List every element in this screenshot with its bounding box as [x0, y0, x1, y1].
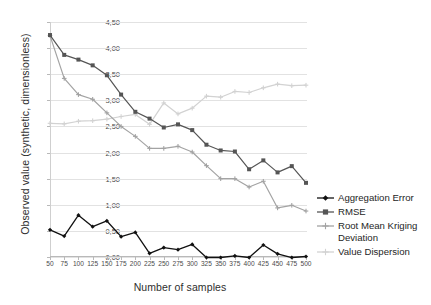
data-point	[275, 206, 280, 211]
legend-label: Value Dispersion	[338, 246, 410, 258]
data-point	[162, 246, 166, 250]
legend-item[interactable]: Root Mean Kriging Deviation	[316, 220, 431, 243]
data-point	[119, 114, 124, 119]
data-point	[233, 150, 237, 154]
data-point	[290, 164, 294, 168]
data-point	[105, 117, 110, 122]
chart-figure: Observed value (synthetic, dimensionless…	[0, 0, 431, 305]
data-point	[261, 179, 266, 184]
legend-item[interactable]: RMSE	[316, 206, 431, 218]
legend-label: RMSE	[338, 206, 366, 218]
legend-marker-plus-icon	[316, 246, 335, 258]
data-point	[275, 82, 280, 87]
data-series-layer	[50, 22, 307, 257]
x-axis-title: Number of samples	[40, 281, 320, 293]
data-point	[261, 158, 265, 162]
data-point	[304, 83, 309, 88]
data-point	[176, 122, 180, 126]
legend-marker-plus-icon	[316, 220, 335, 232]
chart-legend: Aggregation ErrorRMSERoot Mean Kriging D…	[316, 192, 431, 260]
data-point	[62, 122, 67, 127]
data-point	[204, 143, 208, 147]
data-point	[219, 148, 223, 152]
data-point	[48, 33, 52, 37]
data-point	[161, 146, 166, 151]
data-point	[90, 118, 95, 123]
series-value-dispersion	[48, 82, 309, 127]
data-point	[247, 90, 252, 95]
legend-label: Aggregation Error	[338, 192, 414, 204]
series-aggregation-error	[48, 213, 308, 260]
data-point	[218, 95, 223, 100]
data-point	[105, 73, 109, 77]
data-point	[176, 144, 181, 149]
data-point	[247, 167, 251, 171]
series-line	[50, 35, 306, 183]
legend-item[interactable]: Aggregation Error	[316, 192, 431, 204]
data-point	[62, 53, 66, 57]
data-point	[289, 83, 294, 88]
legend-label: Root Mean Kriging Deviation	[338, 220, 431, 243]
data-point	[219, 255, 223, 259]
data-point	[76, 119, 81, 124]
data-point	[304, 209, 309, 214]
data-point	[276, 170, 280, 174]
x-tick-label: 500	[293, 260, 319, 267]
data-point	[119, 93, 123, 97]
data-point	[233, 89, 238, 94]
data-point	[304, 181, 308, 185]
legend-item[interactable]: Value Dispersion	[316, 246, 431, 258]
data-point	[133, 110, 137, 114]
series-rmse	[48, 33, 308, 185]
series-line	[50, 84, 306, 124]
data-point	[190, 128, 194, 132]
data-point	[289, 203, 294, 208]
data-point	[148, 117, 152, 121]
y-axis-title: Observed value (synthetic, dimensionless…	[19, 9, 31, 259]
data-point	[91, 63, 95, 67]
data-point	[176, 248, 180, 252]
data-point	[290, 255, 294, 259]
plot-area	[50, 22, 307, 257]
data-point	[162, 125, 166, 129]
data-point	[261, 86, 266, 91]
data-point	[76, 58, 80, 62]
legend-marker-square-icon	[316, 206, 335, 218]
legend-marker-diamond-icon	[316, 192, 335, 204]
data-point	[48, 121, 53, 126]
